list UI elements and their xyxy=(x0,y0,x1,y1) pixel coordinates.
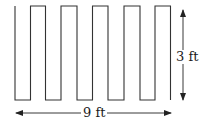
width-label: 9 ft xyxy=(81,106,107,120)
height-label: 3 ft xyxy=(175,50,199,64)
zigzag-outline xyxy=(15,6,171,100)
